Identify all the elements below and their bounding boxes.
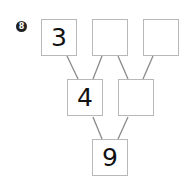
top-box-3[interactable] bbox=[143, 19, 179, 56]
bottom-box[interactable]: 9 bbox=[92, 139, 128, 176]
middle-box-1[interactable]: 4 bbox=[67, 79, 103, 116]
top-box-1[interactable]: 3 bbox=[41, 19, 77, 56]
top-box-2[interactable] bbox=[92, 19, 128, 56]
middle-box-2[interactable] bbox=[118, 79, 154, 116]
